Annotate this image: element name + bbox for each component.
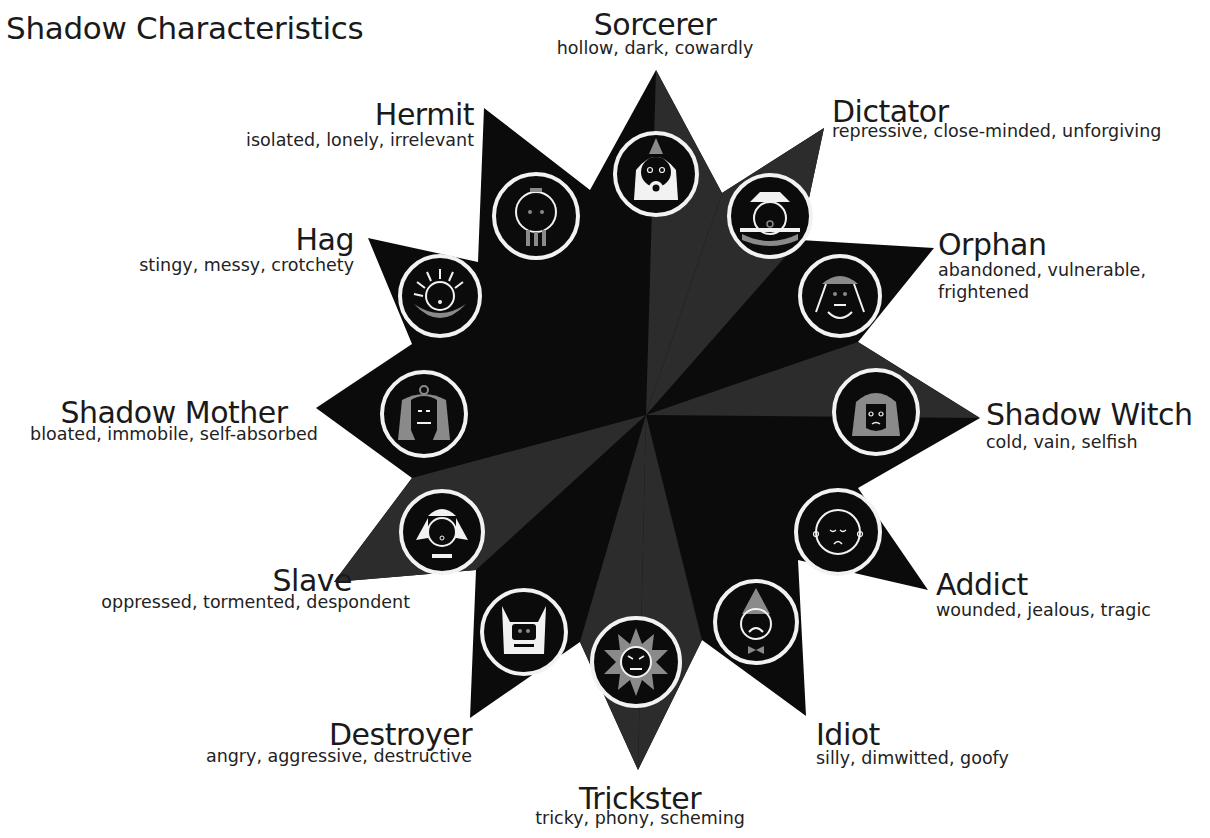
- archetype-label-orphan: Orphan abandoned, vulnerable, frightened: [938, 230, 1146, 301]
- archetype-name: Hag: [139, 225, 354, 255]
- hermit-face-icon: [494, 174, 578, 258]
- archetype-traits: tricky, phony, scheming: [500, 810, 780, 828]
- archetype-traits: oppressed, tormented, despondent: [101, 594, 410, 612]
- archetype-traits: silly, dimwitted, goofy: [816, 750, 1009, 768]
- archetype-label-hermit: Hermit isolated, lonely, irrelevant: [246, 100, 474, 150]
- idiot-face-icon: [715, 581, 797, 663]
- archetype-traits: stingy, messy, crotchety: [139, 257, 354, 275]
- orphan-face-icon: [800, 256, 880, 336]
- hag-face-icon: [400, 256, 480, 336]
- archetype-traits: abandoned, vulnerable,: [938, 262, 1146, 280]
- archetype-name: Shadow Witch: [986, 400, 1193, 430]
- trickster-face-icon: [592, 618, 680, 706]
- archetype-name: Sorcerer: [520, 10, 790, 40]
- archetype-traits: bloated, immobile, self-absorbed: [4, 426, 344, 444]
- archetype-label-hag: Hag stingy, messy, crotchety: [139, 225, 354, 275]
- archetype-label-trickster: Trickster tricky, phony, scheming: [500, 784, 780, 828]
- archetype-label-idiot: Idiot silly, dimwitted, goofy: [816, 720, 1009, 768]
- archetype-name: Addict: [936, 570, 1151, 600]
- slave-face-icon: [401, 491, 483, 573]
- archetype-name: Hermit: [246, 100, 474, 130]
- archetype-traits: wounded, jealous, tragic: [936, 602, 1151, 620]
- destroyer-face-icon: [482, 590, 566, 674]
- shadow-witch-face-icon: [834, 370, 918, 454]
- dictator-face-icon: [729, 175, 811, 257]
- archetype-traits-continued: frightened: [938, 284, 1146, 302]
- archetype-label-addict: Addict wounded, jealous, tragic: [936, 570, 1151, 620]
- shadow-mother-face-icon: [382, 372, 466, 456]
- archetype-traits: cold, vain, selfish: [986, 434, 1193, 452]
- archetype-name: Idiot: [816, 720, 1009, 750]
- archetype-traits: angry, aggressive, destructive: [206, 748, 472, 766]
- archetype-traits: repressive, close-minded, unforgiving: [832, 123, 1161, 141]
- archetype-label-shadow-witch: Shadow Witch cold, vain, selfish: [986, 400, 1193, 452]
- archetype-label-destroyer: Destroyer angry, aggressive, destructive: [206, 720, 472, 766]
- archetype-label-shadow-mother: Shadow Mother bloated, immobile, self-ab…: [4, 398, 344, 444]
- archetype-traits: isolated, lonely, irrelevant: [246, 132, 474, 150]
- sorcerer-face-icon: [615, 133, 697, 215]
- archetype-name: Orphan: [938, 230, 1146, 260]
- archetype-label-dictator: Dictator repressive, close-minded, unfor…: [832, 97, 1161, 141]
- archetype-label-sorcerer: Sorcerer hollow, dark, cowardly: [520, 10, 790, 58]
- archetype-traits: hollow, dark, cowardly: [520, 40, 790, 58]
- addict-face-icon: [796, 490, 880, 574]
- archetype-label-slave: Slave oppressed, tormented, despondent: [101, 566, 410, 612]
